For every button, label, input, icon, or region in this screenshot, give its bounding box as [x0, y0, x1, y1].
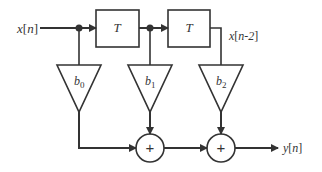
delay-block-2: T: [168, 10, 210, 47]
adder-2: +: [207, 134, 235, 162]
gain-b0: b0: [57, 65, 101, 112]
svg-text:b2: b2: [216, 74, 227, 90]
gain-wire-0: [79, 112, 136, 148]
delay-block-1: T: [96, 10, 139, 47]
gain-b2: b2: [199, 65, 243, 112]
svg-text:b0: b0: [74, 74, 85, 90]
svg-text:b1: b1: [145, 74, 156, 90]
fir-filter-diagram: x[n] T T x[n-2] b0 b1 b2 +: [0, 0, 322, 172]
gain-b1: b1: [128, 65, 172, 112]
delay-label-1: T: [113, 20, 121, 35]
delay-label-2: T: [185, 20, 193, 35]
svg-text:+: +: [146, 139, 155, 156]
tap-label: x[n-2]: [228, 29, 258, 43]
output-label: y[n]: [282, 141, 302, 155]
adder-1: +: [136, 134, 164, 162]
svg-text:+: +: [217, 139, 226, 156]
tap-wire-2: [210, 28, 221, 65]
input-label: x[n]: [16, 21, 38, 36]
